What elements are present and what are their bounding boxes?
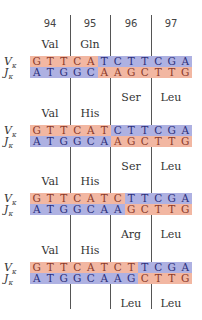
j-kappa-sequence: ATGGCAAGCTTG bbox=[30, 67, 192, 78]
j-kappa-label: Jκ bbox=[4, 135, 28, 150]
nucleotide: G bbox=[125, 136, 139, 147]
nucleotide: G bbox=[179, 67, 193, 78]
amino-acid-label-bottom: Leu bbox=[151, 297, 191, 310]
nucleotide: A bbox=[98, 136, 112, 147]
j-kappa-label: Jκ bbox=[4, 203, 28, 218]
nucleotide: A bbox=[111, 204, 125, 215]
nucleotide: G bbox=[125, 67, 139, 78]
nucleotide: T bbox=[165, 273, 179, 284]
nucleotide: T bbox=[152, 136, 166, 147]
amino-acid-label-top: His bbox=[70, 107, 110, 120]
nucleotide: G bbox=[71, 273, 85, 284]
nucleotide: G bbox=[179, 273, 193, 284]
j-kappa-label: Jκ bbox=[4, 66, 28, 81]
amino-acid-label-top: Gln bbox=[70, 38, 110, 51]
nucleotide: A bbox=[111, 67, 125, 78]
amino-acid-label-bottom: Arg bbox=[111, 228, 151, 241]
amino-acid-label-top: Val bbox=[30, 175, 70, 188]
nucleotide: C bbox=[138, 273, 152, 284]
nucleotide: A bbox=[98, 67, 112, 78]
nucleotide: C bbox=[138, 67, 152, 78]
codon-number-97: 97 bbox=[151, 18, 191, 29]
amino-acid-label-bottom: Leu bbox=[151, 91, 191, 104]
nucleotide: T bbox=[152, 67, 166, 78]
kappa-subscript: κ bbox=[8, 210, 13, 218]
nucleotide: A bbox=[30, 204, 44, 215]
kappa-subscript: κ bbox=[8, 142, 13, 150]
nucleotide: G bbox=[71, 67, 85, 78]
nucleotide: G bbox=[179, 204, 193, 215]
amino-acid-label-bottom: Leu bbox=[151, 160, 191, 173]
kappa-subscript: κ bbox=[8, 73, 13, 81]
nucleotide: A bbox=[30, 67, 44, 78]
nucleotide: C bbox=[84, 136, 98, 147]
j-kappa-label: Jκ bbox=[4, 272, 28, 287]
nucleotide: G bbox=[179, 136, 193, 147]
nucleotide: G bbox=[57, 67, 71, 78]
kappa-subscript: κ bbox=[8, 279, 13, 287]
nucleotide: T bbox=[152, 273, 166, 284]
nucleotide: A bbox=[30, 136, 44, 147]
nucleotide: C bbox=[84, 67, 98, 78]
codon-number-94: 94 bbox=[30, 18, 70, 29]
nucleotide: G bbox=[125, 273, 139, 284]
amino-acid-label-top: His bbox=[70, 244, 110, 257]
nucleotide: T bbox=[165, 136, 179, 147]
amino-acid-label-top: Val bbox=[30, 107, 70, 120]
nucleotide: G bbox=[71, 136, 85, 147]
nucleotide: A bbox=[111, 136, 125, 147]
nucleotide: G bbox=[71, 204, 85, 215]
codon-number-96: 96 bbox=[111, 18, 151, 29]
nucleotide: T bbox=[165, 204, 179, 215]
nucleotide: G bbox=[57, 136, 71, 147]
amino-acid-label-top: Val bbox=[30, 38, 70, 51]
nucleotide: C bbox=[84, 273, 98, 284]
amino-acid-label-bottom: Leu bbox=[151, 228, 191, 241]
codon-number-95: 95 bbox=[70, 18, 110, 29]
nucleotide: A bbox=[98, 273, 112, 284]
nucleotide: C bbox=[138, 204, 152, 215]
amino-acid-label-bottom: Ser bbox=[111, 160, 151, 173]
nucleotide: T bbox=[165, 67, 179, 78]
nucleotide: A bbox=[30, 273, 44, 284]
nucleotide: T bbox=[44, 67, 58, 78]
nucleotide: T bbox=[44, 136, 58, 147]
nucleotide: C bbox=[138, 136, 152, 147]
amino-acid-label-bottom: Leu bbox=[111, 297, 151, 310]
nucleotide: A bbox=[98, 204, 112, 215]
amino-acid-label-bottom: Ser bbox=[111, 91, 151, 104]
nucleotide: G bbox=[57, 204, 71, 215]
j-kappa-sequence: ATGGCAAGCTTG bbox=[30, 273, 192, 284]
nucleotide: A bbox=[111, 273, 125, 284]
nucleotide: G bbox=[125, 204, 139, 215]
nucleotide: T bbox=[152, 204, 166, 215]
nucleotide: C bbox=[84, 204, 98, 215]
nucleotide: T bbox=[44, 273, 58, 284]
nucleotide: T bbox=[44, 204, 58, 215]
amino-acid-label-top: His bbox=[70, 175, 110, 188]
j-kappa-sequence: ATGGCAAGCTTG bbox=[30, 136, 192, 147]
nucleotide: G bbox=[57, 273, 71, 284]
j-kappa-sequence: ATGGCAAGCTTG bbox=[30, 204, 192, 215]
amino-acid-label-top: Val bbox=[30, 244, 70, 257]
